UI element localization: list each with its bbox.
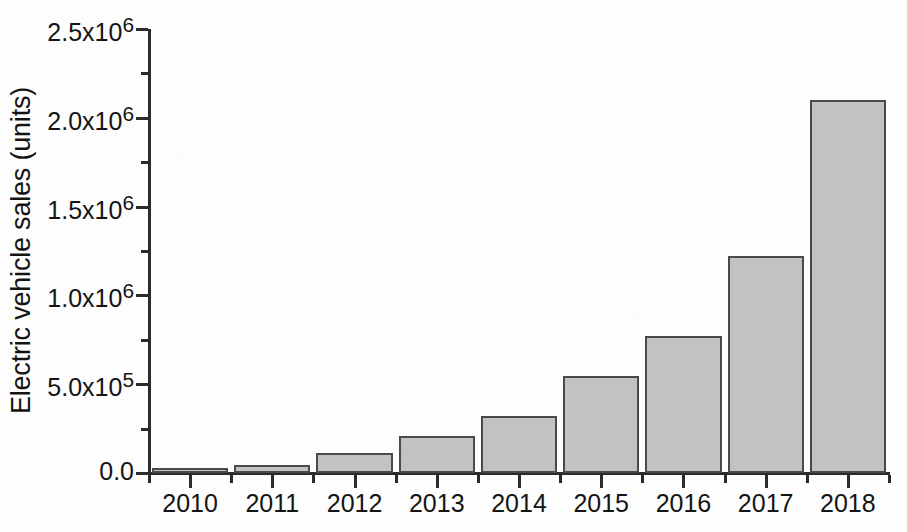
bar-2016 (645, 336, 721, 473)
x-axis-tick-label: 2018 (820, 489, 876, 518)
x-axis-major-tick (436, 475, 439, 488)
y-axis-tick-layer (136, 0, 148, 532)
x-axis-minor-tick (230, 475, 233, 483)
plot-area (149, 29, 889, 473)
y-axis-major-tick (136, 294, 148, 297)
x-axis-tick-label: 2013 (409, 489, 465, 518)
y-tick-exponent: 5 (122, 368, 134, 391)
bar-2017 (728, 256, 804, 473)
chart-figure: Electric vehicle sales (units) 2.5x1062.… (0, 0, 907, 532)
y-axis-tick-label: 1.0x106 (0, 279, 134, 313)
bar-2015 (563, 376, 639, 473)
y-axis-major-tick (136, 28, 148, 31)
y-tick-mantissa: 1.0x10 (47, 285, 122, 313)
x-axis-tick-label-layer: 201020112012201320142015201620172018 (0, 489, 907, 529)
x-axis-tick-label: 2015 (573, 489, 629, 518)
x-axis-major-tick (354, 475, 357, 488)
x-axis-tick-label: 2011 (245, 489, 299, 518)
x-axis-minor-tick (888, 475, 891, 483)
x-axis-minor-tick (312, 475, 315, 483)
y-tick-exponent: 6 (122, 102, 134, 125)
x-axis-minor-tick (148, 475, 151, 483)
y-axis-tick-label: 2.5x106 (0, 13, 134, 47)
y-tick-mantissa: 5.0x10 (47, 374, 122, 402)
x-axis-minor-tick (395, 475, 398, 483)
y-axis-tick-label: 5.0x105 (0, 368, 134, 402)
y-axis-minor-tick (141, 250, 148, 253)
x-axis-minor-tick (806, 475, 809, 483)
y-axis-tick-label-layer: 2.5x1062.0x1061.5x1061.0x1065.0x1050.0 (0, 0, 134, 532)
bar-2010 (152, 468, 228, 473)
x-axis-minor-tick (559, 475, 562, 483)
x-axis-tick-label: 2017 (738, 489, 794, 518)
x-axis-major-tick (271, 475, 274, 488)
bar-2011 (234, 465, 310, 473)
x-axis-major-tick (600, 475, 603, 488)
x-axis-tick-label: 2014 (491, 489, 547, 518)
x-axis-tick-label: 2010 (162, 489, 218, 518)
y-tick-exponent: 6 (122, 191, 134, 214)
y-axis-minor-tick (141, 161, 148, 164)
y-axis-tick-label: 1.5x106 (0, 191, 134, 225)
x-axis-tick-label: 2012 (327, 489, 383, 518)
bar-2014 (481, 416, 557, 473)
y-axis-tick-label: 2.0x106 (0, 102, 134, 136)
x-axis-major-tick (518, 475, 521, 488)
x-axis-major-tick (682, 475, 685, 488)
x-axis-tick-label: 2016 (656, 489, 712, 518)
bar-2018 (810, 100, 886, 473)
y-axis-major-tick (136, 383, 148, 386)
y-axis-major-tick (136, 117, 148, 120)
y-tick-exponent: 6 (122, 279, 134, 302)
bar-2012 (316, 453, 392, 473)
y-axis-minor-tick (141, 339, 148, 342)
x-axis-major-tick (847, 475, 850, 488)
bar-2013 (399, 436, 475, 473)
y-tick-exponent: 6 (122, 13, 134, 36)
y-axis-minor-tick (141, 428, 148, 431)
x-axis-minor-tick (641, 475, 644, 483)
y-tick-mantissa: 1.5x10 (47, 196, 122, 224)
x-axis-minor-tick (724, 475, 727, 483)
y-tick-mantissa: 2.5x10 (47, 18, 122, 46)
y-axis-minor-tick (141, 72, 148, 75)
y-axis-major-tick (136, 206, 148, 209)
y-tick-mantissa: 2.0x10 (47, 107, 122, 135)
x-axis-tick-layer (0, 475, 907, 489)
x-axis-major-tick (765, 475, 768, 488)
x-axis-major-tick (189, 475, 192, 488)
x-axis-minor-tick (477, 475, 480, 483)
